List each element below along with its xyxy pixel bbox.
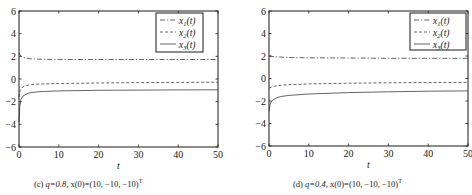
y-tick-label: 2 — [261, 51, 266, 62]
y-tick-label: 2 — [11, 51, 16, 62]
y-tick-label: −4 — [255, 118, 266, 129]
y-tick-label: −2 — [5, 96, 16, 107]
x-tick-label: 30 — [383, 148, 393, 159]
x-tick-label: 10 — [304, 148, 314, 159]
series-line-x2 — [269, 82, 468, 88]
x-tick-label: 20 — [344, 148, 354, 159]
y-tick-label: −6 — [5, 142, 16, 153]
x-axis-label: t — [367, 159, 370, 170]
caption-c: (c) q=0.8, x(0)=(10, −10, −10)T — [34, 178, 142, 189]
x-tick-label: 40 — [173, 149, 183, 160]
series-line-x1 — [19, 53, 218, 60]
legend-label-x1: x1(t) — [178, 16, 195, 27]
y-tick-label: 0 — [261, 73, 266, 84]
x-tick-label: 50 — [213, 149, 223, 160]
legend-label-x2: x2(t) — [178, 28, 195, 39]
y-tick-label: 6 — [11, 6, 16, 17]
series-line-x3 — [19, 90, 218, 122]
chart-panel-c: 01020304050−6−4−20246tx1(t)x2(t)x3(t) (c… — [0, 0, 236, 195]
legend-label-x2: x2(t) — [432, 28, 449, 39]
x-axis-label: t — [117, 160, 120, 171]
series-line-x1 — [269, 56, 468, 58]
caption-label: (c) — [34, 179, 43, 189]
line-chart-d: 01020304050−6−4−20246tx1(t)x2(t)x3(t) — [236, 0, 472, 195]
x-tick-label: 10 — [54, 149, 64, 160]
legend-label-x3: x3(t) — [432, 40, 449, 51]
y-tick-label: 0 — [11, 74, 16, 85]
y-tick-label: 4 — [11, 28, 16, 39]
caption-label: (d) — [293, 179, 303, 189]
chart-panel-d: 01020304050−6−4−20246tx1(t)x2(t)x3(t) (d… — [236, 0, 472, 195]
line-chart-c: 01020304050−6−4−20246tx1(t)x2(t)x3(t) — [0, 0, 236, 195]
x-tick-label: 40 — [423, 148, 433, 159]
legend-label-x1: x1(t) — [432, 16, 449, 27]
x-tick-label: 20 — [94, 149, 104, 160]
y-tick-label: 4 — [261, 28, 266, 39]
caption-init: x(0)=(10, −10, −10) — [330, 179, 398, 189]
caption-d: (d) q=0.4, x(0)=(10, −10, −10)T — [293, 178, 402, 189]
caption-init: x(0)=(10, −10, −10) — [70, 179, 138, 189]
caption-sup: T — [398, 178, 402, 184]
y-tick-label: −6 — [255, 141, 266, 152]
series-line-x3 — [269, 91, 468, 111]
x-tick-label: 0 — [267, 148, 272, 159]
y-tick-label: −2 — [255, 96, 266, 107]
caption-q: q=0.4, — [305, 179, 328, 189]
caption-sup: T — [139, 178, 143, 184]
legend: x1(t)x2(t)x3(t) — [156, 13, 203, 52]
caption-q: q=0.8, — [46, 179, 69, 189]
x-tick-label: 30 — [133, 149, 143, 160]
x-tick-label: 0 — [17, 149, 22, 160]
legend-label-x3: x3(t) — [178, 40, 195, 51]
y-tick-label: −4 — [5, 119, 16, 130]
y-tick-label: 6 — [261, 6, 266, 17]
legend: x1(t)x2(t)x3(t) — [410, 13, 466, 51]
x-tick-label: 50 — [463, 148, 472, 159]
